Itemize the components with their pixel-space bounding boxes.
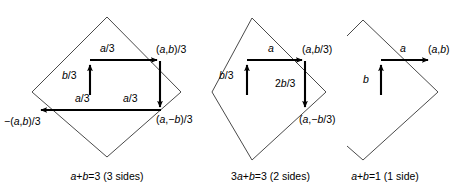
panel-1-diamond [32,17,181,157]
panel-3-label-a-top: a [400,43,406,54]
diamond-outline-1 [32,17,181,157]
panel-1-vectors [41,60,161,110]
panel-2-diamond [212,18,326,160]
panel-1-label-a-over-3-lower-right: a/3 [123,93,138,104]
figure-three-panel-diamonds: a/3 b/3 a/3 a/3 (a,b)/3 (a,−b)/3 −(a,b)/… [0,0,461,191]
panel-1-point-ab-over-3: (a,b)/3 [156,44,186,55]
panel-1-label-a-over-3-lower-left: a/3 [75,93,90,104]
panel-3-point-a-b: (a,b) [428,44,450,55]
panel-1-point-a-minus-b-over-3: (a,−b)/3 [156,114,193,125]
panel-3-caption: a+b=1 (1 side) [315,171,455,182]
panel-2-label-a-top: a [268,43,274,54]
panel-1-point-neg-ab-over-3: −(a,b)/3 [4,116,41,127]
panel-2-label-two-b-over-3: 2b/3 [275,78,295,89]
diamond-outline-2 [212,18,326,160]
figure-canvas [0,0,461,191]
panel-3-vectors [381,60,428,95]
panel-3-diamond [347,20,438,160]
panel-2-point-a-minus-b-over-3: (a,−b/3) [299,114,336,125]
panel-2-point-a-b-over-3: (a,b/3) [302,44,332,55]
panel-3-label-b-left: b [363,74,369,85]
diamond-outline-3-lower-right [347,92,438,160]
diamond-outline-3-upper-left [347,20,438,92]
panel-1-label-b-over-3-left: b/3 [62,70,77,81]
panel-1-caption: a+b=3 (3 sides) [22,171,192,182]
panel-1-label-a-over-3-top: a/3 [100,43,115,54]
panel-2-label-b-over-3-left: b/3 [219,70,234,81]
